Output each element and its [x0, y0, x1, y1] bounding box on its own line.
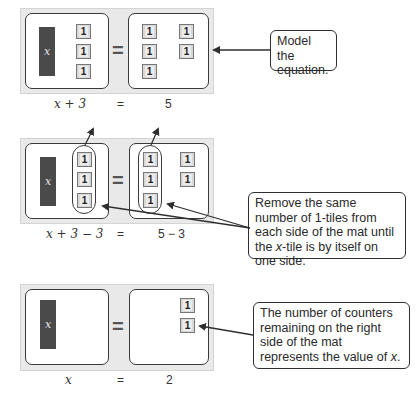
expression-right: 5 − 3	[158, 228, 185, 240]
one-tile: 1	[179, 44, 194, 59]
one-tile: 1	[180, 318, 195, 333]
x-tile: x	[40, 157, 56, 206]
callout-remove: Remove the same number of 1-tiles from e…	[248, 192, 406, 259]
one-tile: 1	[142, 64, 157, 79]
expression-left: x	[65, 374, 72, 386]
tile-label: 1	[145, 46, 154, 57]
tile-label: 1	[79, 46, 88, 57]
one-tile: 1	[143, 172, 158, 187]
tile-label: 1	[145, 66, 154, 77]
one-tile: 1	[142, 24, 157, 39]
tile-label: 1	[146, 195, 155, 206]
expression-equals: =	[117, 374, 124, 386]
callout-model: Model the equation.	[270, 30, 337, 71]
right-mat-3	[129, 289, 209, 365]
expression-left: x + 3 − 3	[46, 228, 103, 240]
tile-label: 1	[182, 46, 191, 57]
right-mat-1	[128, 13, 209, 89]
equals-sign: =	[112, 170, 124, 190]
one-tile: 1	[76, 24, 91, 39]
tile-label: 1	[183, 174, 192, 185]
tile-label: 1	[183, 320, 192, 331]
one-tile: 1	[77, 152, 92, 167]
tile-label: 1	[79, 26, 88, 37]
tile-label: 1	[146, 154, 155, 165]
one-tile: 1	[179, 24, 194, 39]
tile-label: 1	[146, 174, 155, 185]
one-tile: 1	[180, 152, 195, 167]
x-tile: x	[40, 300, 56, 349]
tile-label: 1	[183, 154, 192, 165]
expression-left: x + 3	[54, 98, 86, 110]
one-tile: 1	[77, 193, 92, 208]
one-tile: 1	[142, 44, 157, 59]
one-tile: 1	[143, 193, 158, 208]
tile-label: 1	[80, 174, 89, 185]
expression-right: 5	[165, 98, 172, 110]
left-mat-1	[25, 13, 109, 89]
one-tile: 1	[143, 152, 158, 167]
one-tile: 1	[180, 172, 195, 187]
tile-label: 1	[80, 195, 89, 206]
one-tile: 1	[180, 298, 195, 313]
one-tile: 1	[77, 172, 92, 187]
tile-label: 1	[79, 66, 88, 77]
tile-label: 1	[183, 300, 192, 311]
expression-equals: =	[117, 228, 124, 240]
expression-right: 2	[166, 374, 173, 386]
tile-label: 1	[80, 154, 89, 165]
callout-solution: The number of counters remaining on the …	[253, 302, 410, 369]
tile-label: 1	[145, 26, 154, 37]
equals-sign: =	[112, 316, 124, 336]
expression-equals: =	[117, 98, 124, 110]
one-tile: 1	[76, 44, 91, 59]
left-mat-2	[25, 143, 109, 219]
equals-sign: =	[112, 40, 124, 60]
x-tile: x	[39, 27, 55, 76]
one-tile: 1	[76, 64, 91, 79]
tile-label: 1	[182, 26, 191, 37]
left-mat-3	[25, 289, 109, 365]
